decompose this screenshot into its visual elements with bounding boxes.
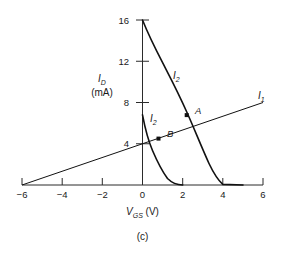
x-tick-label-4: 4 [220, 189, 225, 200]
y-tick-label-16: 16 [118, 15, 129, 26]
y-axis-title-subscript: D [101, 79, 106, 86]
point-a-label: A [194, 105, 201, 116]
x-tick-label-2: 2 [180, 189, 185, 200]
x-tick-label--6: −6 [17, 189, 28, 200]
y-tick-labels: 4 8 12 16 [118, 15, 129, 150]
y-tick-label-8: 8 [124, 97, 129, 108]
y-tick-label-12: 12 [118, 56, 129, 67]
figure-caption: (c) [0, 231, 285, 242]
point-b-marker [157, 137, 161, 141]
y-axis-title: ID (mA) [91, 73, 113, 98]
point-a-marker [185, 113, 189, 117]
x-tick-labels: −6 −4 −2 0 2 4 6 [17, 189, 266, 200]
i2-lower-curve [143, 115, 183, 185]
point-b-label: B [167, 128, 174, 139]
i1-label: I1 [258, 90, 265, 103]
x-tick-label-6: 6 [260, 189, 265, 200]
x-axis-title-subscript: GS [133, 212, 143, 219]
y-axis-title-unit: (mA) [91, 87, 113, 98]
i2-upper-label: I2 [173, 70, 180, 83]
svg-text:ID: ID [98, 73, 106, 86]
chart-plot: −6 −4 −2 0 2 4 6 4 8 12 16 ID (mA) VGS (… [0, 0, 285, 262]
x-tick-label-0: 0 [140, 189, 145, 200]
series-i1: I1 [22, 90, 265, 185]
x-tick-label--4: −4 [57, 189, 68, 200]
x-axis-title-unit: (V) [146, 206, 159, 217]
svg-text:VGS (V): VGS (V) [126, 206, 159, 219]
y-tick-label-4: 4 [124, 138, 129, 149]
i2-lower-label: I2 [150, 113, 157, 126]
annotation-point-b: B [157, 128, 175, 141]
x-tick-label--2: −2 [97, 189, 108, 200]
series-i2-lower: I2 [143, 113, 183, 185]
x-axis-title: VGS (V) [126, 206, 159, 219]
figure-container: −6 −4 −2 0 2 4 6 4 8 12 16 ID (mA) VGS (… [0, 0, 285, 262]
